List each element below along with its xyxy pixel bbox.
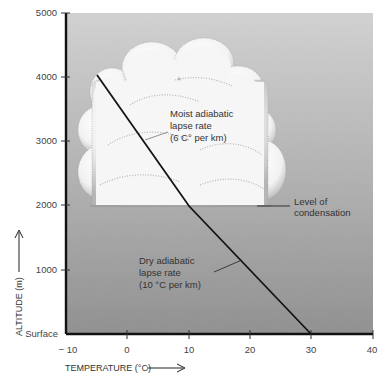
y-tick-label: 1000 (36, 264, 57, 275)
x-axis-arrow-icon (147, 364, 185, 372)
x-tick-label: 40 (367, 344, 378, 355)
y-tick-label: 4000 (36, 71, 57, 82)
x-tick-label: 10 (184, 344, 195, 355)
y-tick-label: 3000 (36, 135, 57, 146)
x-tick-label: 30 (306, 344, 317, 355)
svg-text:Dry adiabatic: Dry adiabatic (139, 255, 195, 266)
svg-text:condensation: condensation (294, 207, 351, 218)
x-tick-label: − 10 (59, 344, 78, 355)
x-tick-label: 0 (124, 344, 129, 355)
y-tick-label-surface: Surface (25, 328, 58, 339)
x-tick-label: 20 (245, 344, 256, 355)
svg-text:Level of: Level of (294, 196, 328, 207)
svg-text:Moist adiabatic: Moist adiabatic (170, 108, 234, 119)
svg-text:(10 °C per km): (10 °C per km) (139, 279, 201, 290)
lapse-rate-chart: 5000 4000 3000 2000 1000 Surface − 10 0 … (0, 0, 391, 392)
y-tick-label: 5000 (36, 7, 57, 18)
y-axis-title: ALTITUDE (m) (14, 277, 24, 336)
x-axis-title: TEMPERATURE (°C) (65, 363, 151, 373)
y-tick-label: 2000 (36, 199, 57, 210)
svg-text:lapse rate: lapse rate (170, 120, 212, 131)
svg-text:(6 C° per km): (6 C° per km) (170, 132, 227, 143)
y-axis-arrow-icon (15, 230, 23, 272)
svg-text:lapse rate: lapse rate (139, 267, 181, 278)
